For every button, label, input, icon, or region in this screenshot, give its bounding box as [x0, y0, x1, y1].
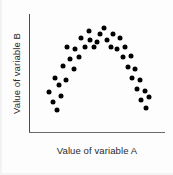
data-point	[132, 66, 137, 71]
data-point	[63, 77, 68, 82]
data-point	[137, 77, 142, 82]
data-point	[72, 47, 77, 52]
data-point	[117, 35, 122, 40]
data-point	[120, 54, 125, 59]
data-point	[83, 45, 88, 50]
data-point	[92, 45, 97, 50]
data-point	[78, 35, 83, 40]
image-edge-bottom	[0, 173, 173, 175]
data-point	[146, 94, 151, 99]
image-edge-left	[0, 0, 2, 175]
data-point	[50, 100, 55, 105]
x-axis-line	[29, 132, 165, 133]
data-point	[129, 54, 134, 59]
data-point	[86, 28, 91, 33]
data-point	[123, 45, 128, 50]
data-point	[95, 39, 100, 44]
data-point	[134, 87, 139, 92]
data-point	[114, 47, 119, 52]
plot-area	[29, 14, 165, 132]
data-point	[129, 75, 134, 80]
data-point	[61, 64, 66, 69]
data-point	[58, 94, 63, 99]
data-point	[101, 26, 106, 31]
x-axis-label: Value of variable A	[29, 145, 165, 156]
data-point	[57, 83, 62, 88]
data-point	[105, 37, 110, 42]
scatter-plot-figure: Value of variable B Value of variable A	[0, 0, 173, 175]
data-point	[97, 31, 102, 36]
data-point	[77, 54, 82, 59]
data-point	[88, 37, 93, 42]
y-axis-label: Value of variable B	[11, 14, 23, 133]
data-point	[143, 89, 148, 94]
data-point	[126, 64, 131, 69]
data-point	[139, 98, 144, 103]
data-point	[55, 108, 60, 113]
data-point	[64, 45, 69, 50]
data-point	[111, 31, 116, 36]
data-point	[67, 56, 72, 61]
data-point	[109, 45, 114, 50]
data-point	[72, 66, 77, 71]
data-point	[46, 89, 51, 94]
data-point	[52, 75, 57, 80]
data-point	[143, 106, 148, 111]
